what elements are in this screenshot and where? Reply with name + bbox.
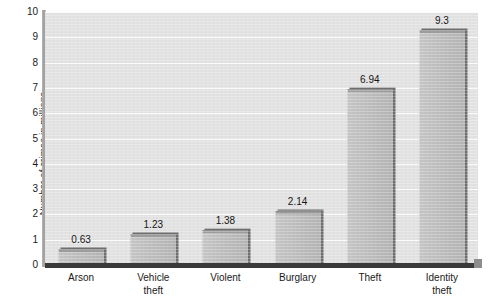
gridline	[45, 113, 478, 114]
y-axis-tick-label: 8	[16, 58, 38, 68]
bar-top-edge	[276, 212, 321, 214]
y-axis-tick-label: 5	[16, 134, 38, 144]
x-axis-baseline-end-cap	[474, 259, 482, 268]
bar	[347, 89, 393, 265]
bar-value-label: 6.94	[345, 75, 395, 85]
gridline	[45, 88, 478, 89]
y-axis-tick-label: 0	[16, 260, 38, 270]
y-axis-tick-label: 3	[16, 184, 38, 194]
y-axis-tick-label: 2	[16, 209, 38, 219]
x-axis-tick-label: Theft	[330, 272, 410, 285]
gridline	[45, 139, 478, 140]
y-axis-tick-label: 9	[16, 32, 38, 42]
bar-value-label: 0.63	[56, 235, 106, 245]
bar	[202, 230, 248, 265]
y-axis-tick-label: 10	[16, 7, 38, 17]
bar-top-edge	[348, 90, 393, 92]
x-axis-baseline	[45, 263, 481, 268]
bar-top-edge	[59, 250, 104, 252]
y-axis-tick-label: 7	[16, 83, 38, 93]
y-axis-tick-label: 4	[16, 159, 38, 169]
y-axis-tick-label: 6	[16, 108, 38, 118]
bar-value-label: 1.23	[128, 220, 178, 230]
gridline	[45, 214, 478, 215]
gridline	[45, 164, 478, 165]
gridline	[45, 240, 478, 241]
x-axis-tick-label: Vehicle theft	[113, 272, 193, 297]
bar-top-edge	[131, 235, 176, 237]
x-axis-tick-label: Burglary	[258, 272, 338, 285]
gridline	[45, 63, 478, 64]
bar-value-label: 2.14	[273, 197, 323, 207]
bar-value-label: 9.3	[417, 16, 467, 26]
x-axis-tick-label: Identity theft	[402, 272, 482, 297]
bar	[275, 211, 321, 265]
x-axis-tick-label: Arson	[41, 272, 121, 285]
bar-top-edge	[420, 31, 465, 33]
bar	[419, 30, 465, 265]
x-axis-tick-label: Violent	[185, 272, 265, 285]
plot-area	[45, 12, 478, 265]
bar-chart-figure: Number of crimes in millions 01234567891…	[0, 0, 493, 308]
y-axis-tick-label: 1	[16, 235, 38, 245]
gridline	[45, 189, 478, 190]
bar-value-label: 1.38	[200, 216, 250, 226]
bar-top-edge	[203, 231, 248, 233]
gridline	[45, 12, 478, 13]
bar	[130, 234, 176, 265]
gridline	[45, 37, 478, 38]
